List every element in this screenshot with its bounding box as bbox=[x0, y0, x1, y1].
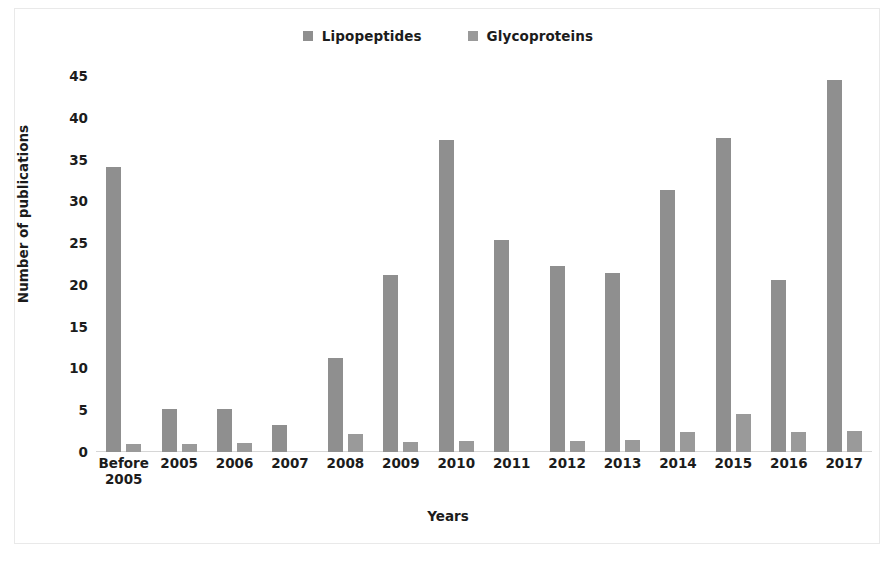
bar-glycoproteins bbox=[237, 443, 252, 452]
bar-group bbox=[706, 76, 761, 452]
bar-lipopeptides bbox=[660, 190, 675, 452]
bar-group bbox=[318, 76, 373, 452]
chart-legend: LipopeptidesGlycoproteins bbox=[0, 28, 896, 44]
y-axis-tick-label: 0 bbox=[79, 444, 88, 460]
x-axis-tick-label: 2015 bbox=[706, 456, 761, 488]
bar-group bbox=[484, 76, 539, 452]
y-axis-tick-label: 25 bbox=[69, 235, 88, 251]
x-axis-tick-label: 2011 bbox=[484, 456, 539, 488]
bar-group bbox=[595, 76, 650, 452]
bar-glycoproteins bbox=[403, 442, 418, 452]
x-axis-tick-label: 2008 bbox=[318, 456, 373, 488]
y-axis-tick-label: 20 bbox=[69, 277, 88, 293]
x-axis-tick-label: 2016 bbox=[761, 456, 816, 488]
plot-area bbox=[96, 76, 872, 452]
x-axis-tick-label: 2013 bbox=[595, 456, 650, 488]
bar-glycoproteins bbox=[736, 414, 751, 452]
y-axis-tick-label: 15 bbox=[69, 319, 88, 335]
bar-group bbox=[207, 76, 262, 452]
bar-lipopeptides bbox=[272, 425, 287, 452]
x-axis-tick-label: 2010 bbox=[429, 456, 484, 488]
legend-entry: Lipopeptides bbox=[303, 28, 422, 44]
x-axis-tick-label: 2012 bbox=[539, 456, 594, 488]
bar-glycoproteins bbox=[680, 432, 695, 452]
bar-group bbox=[650, 76, 705, 452]
bar-lipopeptides bbox=[439, 140, 454, 452]
bar-group bbox=[151, 76, 206, 452]
bar-glycoproteins bbox=[847, 431, 862, 452]
bar-lipopeptides bbox=[106, 167, 121, 452]
bar-lipopeptides bbox=[827, 80, 842, 452]
bar-glycoproteins bbox=[791, 432, 806, 452]
y-axis-title: Number of publications bbox=[15, 99, 31, 329]
bar-lipopeptides bbox=[494, 240, 509, 452]
x-axis-tick-label: 2017 bbox=[816, 456, 871, 488]
legend-swatch-icon bbox=[303, 31, 313, 41]
publications-bar-chart: LipopeptidesGlycoproteins 05101520253035… bbox=[0, 0, 896, 561]
y-axis-tick-label: 35 bbox=[69, 152, 88, 168]
bar-group bbox=[539, 76, 594, 452]
y-axis-tick-label: 30 bbox=[69, 193, 88, 209]
bar-lipopeptides bbox=[771, 280, 786, 452]
y-axis-tick-label: 10 bbox=[69, 360, 88, 376]
x-axis-title: Years bbox=[0, 508, 896, 524]
bar-lipopeptides bbox=[217, 409, 232, 452]
legend-label: Lipopeptides bbox=[322, 28, 422, 44]
bar-group bbox=[96, 76, 151, 452]
bar-lipopeptides bbox=[328, 358, 343, 452]
x-axis: Before 200520052006200720082009201020112… bbox=[96, 456, 872, 488]
y-axis-tick-label: 5 bbox=[79, 402, 88, 418]
legend-swatch-icon bbox=[468, 31, 478, 41]
x-axis-tick-label: 2006 bbox=[207, 456, 262, 488]
bar-group bbox=[816, 76, 871, 452]
bar-glycoproteins bbox=[126, 444, 141, 452]
bar-group bbox=[429, 76, 484, 452]
x-axis-tick-label: Before 2005 bbox=[96, 456, 151, 488]
bar-group bbox=[262, 76, 317, 452]
bar-glycoproteins bbox=[182, 444, 197, 452]
legend-entry: Glycoproteins bbox=[468, 28, 594, 44]
bar-lipopeptides bbox=[550, 266, 565, 452]
bar-glycoproteins bbox=[570, 441, 585, 452]
y-axis-tick-label: 45 bbox=[69, 68, 88, 84]
legend-label: Glycoproteins bbox=[487, 28, 594, 44]
bar-lipopeptides bbox=[716, 138, 731, 452]
x-axis-tick-label: 2007 bbox=[262, 456, 317, 488]
y-axis-tick-label: 40 bbox=[69, 110, 88, 126]
bar-glycoproteins bbox=[348, 434, 363, 452]
y-axis: 051015202530354045 bbox=[46, 76, 88, 452]
bar-group bbox=[761, 76, 816, 452]
x-axis-tick-label: 2005 bbox=[151, 456, 206, 488]
bar-group bbox=[373, 76, 428, 452]
bar-glycoproteins bbox=[459, 441, 474, 452]
x-axis-tick-label: 2014 bbox=[650, 456, 705, 488]
bar-glycoproteins bbox=[625, 440, 640, 452]
bar-lipopeptides bbox=[162, 409, 177, 452]
bar-lipopeptides bbox=[383, 275, 398, 452]
x-axis-tick-label: 2009 bbox=[373, 456, 428, 488]
bar-groups bbox=[96, 76, 872, 452]
bar-lipopeptides bbox=[605, 273, 620, 452]
